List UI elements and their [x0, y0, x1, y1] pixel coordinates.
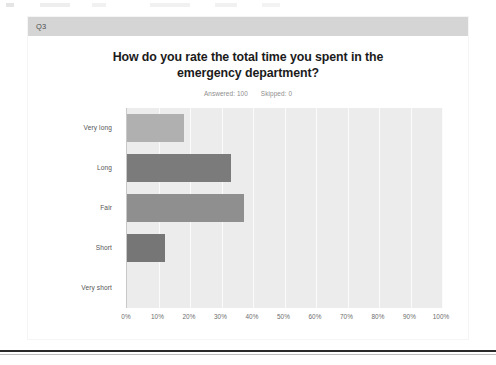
bar-row	[127, 148, 442, 188]
x-axis-tick-20pct: 20%	[182, 313, 195, 320]
x-axis-tick-60pct: 60%	[308, 313, 321, 320]
x-axis-tick-80pct: 80%	[371, 313, 384, 320]
y-axis-label-long: Long	[97, 148, 112, 188]
response-summary: Answered: 100Skipped: 0	[28, 90, 468, 97]
bar-row	[127, 108, 442, 148]
y-axis-category-labels: Very longLongFairShortVery short	[28, 108, 120, 308]
page-bottom-rule-secondary	[0, 354, 496, 355]
page-scan-artifacts	[0, 0, 496, 16]
plot-area	[126, 108, 442, 308]
bar-series	[127, 108, 442, 308]
skipped-count-label: Skipped: 0	[261, 90, 292, 97]
bar-row	[127, 188, 442, 228]
x-axis-tick-100pct: 100%	[433, 313, 450, 320]
bar-row	[127, 228, 442, 268]
x-axis-tick-labels: 0%10%20%30%40%50%60%70%80%90%100%	[126, 313, 441, 327]
bar-chart: Very longLongFairShortVery short 0%10%20…	[28, 108, 468, 336]
y-axis-label-very-long: Very long	[84, 108, 112, 148]
x-axis-tick-0pct: 0%	[121, 313, 130, 320]
y-axis-label-fair: Fair	[100, 188, 112, 228]
answered-count-label: Answered: 100	[204, 90, 248, 97]
question-number-label: Q3	[36, 22, 46, 31]
page-bottom-rule	[0, 350, 496, 352]
question-header-bar: Q3	[28, 17, 468, 36]
x-axis-tick-70pct: 70%	[340, 313, 353, 320]
y-axis-label-short: Short	[96, 228, 112, 268]
x-axis-tick-90pct: 90%	[403, 313, 416, 320]
survey-question-card: Q3 How do you rate the total time you sp…	[28, 17, 468, 339]
bar-short[interactable]	[127, 234, 165, 262]
bar-very-long[interactable]	[127, 114, 184, 142]
x-axis-tick-50pct: 50%	[277, 313, 290, 320]
x-axis-tick-40pct: 40%	[245, 313, 258, 320]
bar-fair[interactable]	[127, 194, 244, 222]
bar-row	[127, 268, 442, 308]
x-axis-tick-30pct: 30%	[214, 313, 227, 320]
question-card-body: How do you rate the total time you spent…	[28, 36, 468, 339]
page-title: How do you rate the total time you spent…	[28, 49, 468, 81]
y-axis-label-very-short: Very short	[81, 268, 112, 308]
x-axis-tick-10pct: 10%	[151, 313, 164, 320]
bar-long[interactable]	[127, 154, 231, 182]
gridline	[442, 108, 443, 308]
